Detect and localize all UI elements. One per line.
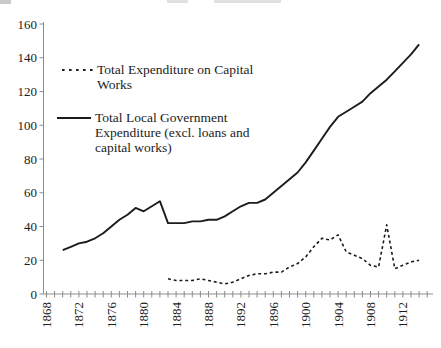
legend-label-capital-works: Total Expenditure on Capital Works (97, 62, 271, 92)
legend-label-line: Works (97, 77, 271, 92)
solid-line-key (56, 111, 92, 123)
legend-item-local-government: Total Local Government Expenditure (excl… (56, 110, 269, 155)
legend-label-local-government: Total Local Government Expenditure (excl… (95, 110, 269, 155)
legend-item-capital-works: Total Expenditure on Capital Works (61, 62, 271, 92)
chart-figure: 0204060801001201401601868187218761880188… (0, 0, 441, 348)
chart-legend: Total Expenditure on Capital Works Total… (0, 0, 441, 348)
dashed-line-key (61, 63, 94, 75)
legend-label-line: Total Expenditure on Capital (97, 62, 271, 77)
legend-label-line: capital works) (95, 140, 269, 155)
legend-label-line: Total Local Government (95, 110, 269, 125)
legend-label-line: Expenditure (excl. loans and (95, 125, 269, 140)
